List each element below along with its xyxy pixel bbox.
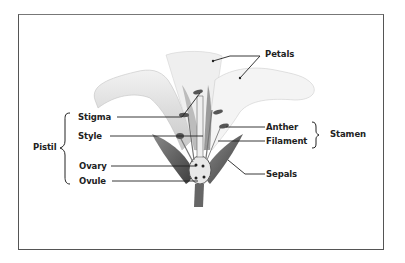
style	[197, 96, 203, 157]
label-sepals: Sepals	[266, 170, 297, 179]
label-filament: Filament	[266, 137, 307, 146]
label-ovary: Ovary	[79, 162, 107, 171]
label-petals: Petals	[265, 50, 294, 59]
label-style: Style	[78, 132, 102, 141]
label-stamen: Stamen	[330, 130, 366, 139]
pistil-brace	[60, 113, 70, 184]
stem	[194, 184, 204, 207]
label-stigma: Stigma	[78, 113, 111, 122]
label-ovule: Ovule	[79, 177, 106, 186]
label-anther: Anther	[266, 123, 298, 132]
label-pistil: Pistil	[33, 143, 57, 152]
stamen-brace	[312, 122, 319, 148]
